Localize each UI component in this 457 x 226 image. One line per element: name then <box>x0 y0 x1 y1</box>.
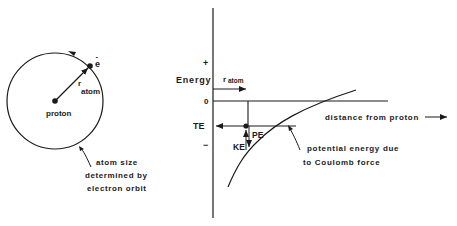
r-atom-label: r <box>223 75 226 84</box>
r-atom-label-sub: atom <box>228 77 244 84</box>
atom-energy-diagram: e - r atom proton atom size determined b… <box>0 0 457 226</box>
electron-dot <box>87 63 93 69</box>
curve-caption-line-1: potential energy due <box>307 144 399 153</box>
minus-sign: − <box>203 140 208 150</box>
energy-axis-label: Energy <box>176 75 211 85</box>
ke-label: KE <box>233 142 245 152</box>
caption-line-3: electron orbit <box>87 184 147 193</box>
potential-energy-curve <box>228 90 356 187</box>
curve-caption-pointer <box>289 127 300 150</box>
proton-label: proton <box>46 109 71 118</box>
plus-sign: + <box>203 58 208 68</box>
x-axis-label: distance from proton <box>325 113 419 122</box>
te-label: TE <box>193 121 205 131</box>
pe-label: PE <box>252 130 264 140</box>
caption-line-1: atom size <box>96 158 138 167</box>
zero-tick-label: 0 <box>204 97 209 106</box>
caption-line-2: determined by <box>85 171 147 180</box>
state-dot <box>243 123 248 128</box>
caption-pointer-arrow-icon <box>79 146 84 151</box>
radius-arrow <box>55 68 88 101</box>
curve-caption-line-2: to Coulomb force <box>303 158 380 167</box>
atom-model: e - r atom proton atom size determined b… <box>7 51 147 193</box>
energy-plot: + Energy 0 − r atom TE PE KE distance fr… <box>176 8 447 218</box>
radius-label-sub: atom <box>81 87 100 96</box>
electron-bar: - <box>96 52 99 61</box>
